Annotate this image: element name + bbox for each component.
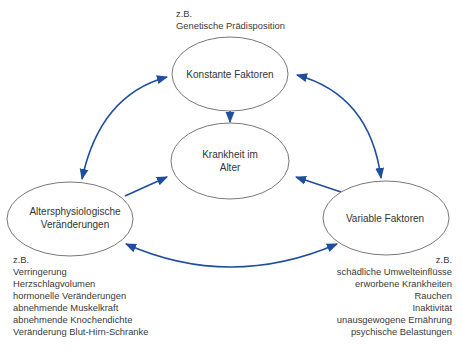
arrow-konstant-alters: [82, 77, 167, 179]
node-label-line2: Veränderungen: [41, 219, 109, 230]
note-line: Verringerung: [13, 266, 149, 278]
node-variable-faktoren: Variable Faktoren: [323, 181, 449, 255]
note-line: z.B.: [13, 254, 149, 266]
arrow-alters-to-krankheit: [125, 177, 167, 196]
node-label: Konstante Faktoren: [186, 69, 273, 80]
note-konstante-faktoren: z.B. Genetische Prädisposition: [176, 8, 285, 32]
note-line: Genetische Prädisposition: [176, 20, 285, 32]
node-altersphysiologische-veraenderungen: Altersphysiologische Veränderungen: [7, 182, 133, 256]
note-line: Inaktivität: [337, 302, 452, 314]
node-label: Variable Faktoren: [346, 213, 424, 224]
note-variable-faktoren: z.B. schädliche Umwelteinflüsse erworben…: [337, 254, 452, 338]
note-line: Veränderung Blut-Hirn-Schranke: [13, 326, 149, 338]
note-line: unausgewogene Ernährung: [337, 314, 452, 326]
note-line: Rauchen: [337, 290, 452, 302]
node-label-line1: Altersphysiologische: [29, 206, 121, 217]
arrow-alters-variabel: [126, 244, 337, 267]
node-label-line1: Krankheit im: [202, 149, 258, 160]
note-line: abnehmende Knochendichte: [13, 314, 149, 326]
node-konstante-faktoren: Konstante Faktoren: [172, 37, 288, 111]
note-line: abnehmende Muskelkraft: [13, 302, 149, 314]
note-line: hormonelle Veränderungen: [13, 290, 149, 302]
arrow-variabel-to-krankheit: [296, 177, 341, 192]
note-line: erworbene Krankheiten: [337, 278, 452, 290]
note-altersphysiologische: z.B. Verringerung Herzschlagvolumen horm…: [13, 254, 149, 338]
node-krankheit-im-alter: Krankheit im Alter: [171, 123, 289, 199]
note-line: z.B.: [337, 254, 452, 266]
note-line: z.B.: [176, 8, 285, 20]
note-line: psychische Belastungen: [337, 326, 452, 338]
note-line: Herzschlagvolumen: [13, 278, 149, 290]
node-label-line2: Alter: [220, 162, 241, 173]
note-line: schädliche Umwelteinflüsse: [337, 266, 452, 278]
arrow-konstant-variabel: [297, 75, 381, 178]
